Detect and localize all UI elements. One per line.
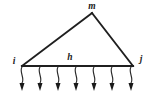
distributed-load-arrows xyxy=(20,67,134,91)
load-arrow-stem xyxy=(130,67,132,83)
member-left-rafter xyxy=(22,13,92,66)
member-right-rafter xyxy=(92,13,133,66)
diagram-canvas: m i j h xyxy=(0,0,154,96)
load-arrow-stem xyxy=(57,67,59,83)
truss-load-diagram: m i j h xyxy=(0,0,154,96)
load-arrow-head xyxy=(92,83,97,91)
load-arrow-stem xyxy=(21,67,23,83)
node-label-j: j xyxy=(138,54,143,64)
member-label-h: h xyxy=(67,52,72,62)
load-arrow-head xyxy=(20,83,25,91)
diagram-labels: m i j h xyxy=(13,1,143,66)
load-arrow-stem xyxy=(75,67,77,83)
load-arrow-head xyxy=(110,83,115,91)
load-arrow-head xyxy=(56,83,61,91)
load-arrow-head xyxy=(74,83,79,91)
truss-members xyxy=(22,13,133,66)
load-arrow-head xyxy=(38,83,43,91)
load-arrow-stem xyxy=(93,67,95,83)
load-arrow-stem xyxy=(111,67,113,83)
node-label-m: m xyxy=(88,1,95,11)
load-arrow-head xyxy=(129,83,134,91)
load-arrow-stem xyxy=(39,67,41,83)
node-label-i: i xyxy=(13,56,16,66)
